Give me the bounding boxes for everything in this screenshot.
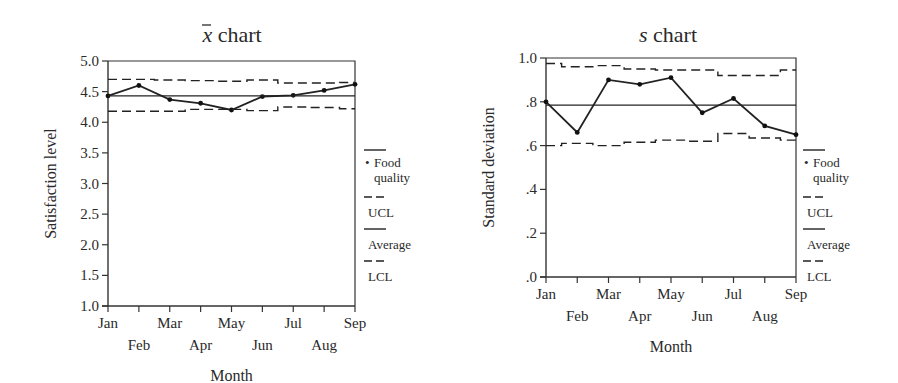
data-point-marker (136, 83, 141, 88)
legend: •FoodqualityUCLAverageLCL (364, 150, 411, 284)
y-tick-label: 3.5 (80, 145, 99, 161)
x-tick-label: Apr (628, 308, 651, 324)
x-tick-label: Feb (566, 308, 589, 324)
chart-title-symbol: x (201, 22, 212, 47)
legend-label: LCL (368, 269, 393, 284)
y-axis-label: Standard deviation (480, 107, 497, 227)
data-point-marker (167, 97, 172, 102)
food-quality-line (108, 84, 355, 110)
x-axis-label: Month (650, 338, 693, 355)
y-tick-label: .0 (526, 269, 537, 285)
legend-label: UCL (368, 205, 394, 220)
y-tick-label: .6 (526, 138, 538, 154)
x-tick-label: Jul (725, 286, 743, 302)
data-point-marker (322, 88, 327, 93)
y-tick-label: 1.5 (80, 267, 99, 283)
x-tick-label: Jul (284, 315, 302, 331)
x-tick-label: Sep (785, 286, 808, 302)
plot-frame (108, 61, 355, 306)
data-point-marker (700, 110, 705, 115)
control-charts-canvas: x chart1.01.52.02.53.03.54.04.55.0JanFeb… (0, 0, 898, 383)
x-tick-label: Aug (752, 308, 778, 324)
y-tick-label: .8 (526, 94, 537, 110)
legend-label: LCL (807, 269, 832, 284)
x-tick-label: Jun (252, 337, 273, 353)
y-tick-label: 4.0 (80, 114, 99, 130)
data-point-marker (669, 75, 674, 80)
x-tick-label: May (218, 315, 246, 331)
food-quality-line (546, 78, 796, 135)
legend-label-cont: quality (813, 170, 850, 185)
x-axis-label: Month (210, 367, 253, 383)
lcl-line (546, 134, 796, 146)
data-point-marker (575, 130, 580, 135)
legend-label: Average (807, 237, 850, 252)
data-point-marker (794, 132, 799, 137)
y-tick-label: 1.0 (80, 298, 99, 314)
chart-title-symbol: s (639, 22, 648, 47)
x-tick-label: Feb (128, 337, 151, 353)
legend-label: Average (368, 237, 411, 252)
data-point-marker (637, 82, 642, 87)
legend-label: UCL (807, 205, 833, 220)
x-tick-label: May (657, 286, 685, 302)
data-point-marker (544, 99, 549, 104)
plot-frame (546, 58, 796, 277)
x-tick-label: Mar (596, 286, 621, 302)
chart-title: s chart (639, 22, 697, 47)
x-tick-label: Apr (189, 337, 212, 353)
legend-marker-icon: • (365, 155, 370, 170)
x-tick-label: Aug (311, 337, 337, 353)
x-tick-label: Jan (98, 315, 118, 331)
chart-title: x chart (201, 22, 261, 47)
legend-marker-icon: • (804, 155, 809, 170)
legend-label-cont: quality (374, 170, 411, 185)
data-point-marker (198, 101, 203, 106)
xbar-chart: x chart1.01.52.02.53.03.54.04.55.0JanFeb… (42, 22, 411, 383)
y-tick-label: 2.0 (80, 237, 99, 253)
data-point-marker (606, 78, 611, 83)
legend-label: Food (813, 155, 840, 170)
y-tick-label: 5.0 (80, 53, 99, 69)
chart-title-text: chart (212, 22, 261, 47)
x-tick-label: Jun (692, 308, 713, 324)
y-tick-label: 3.0 (80, 176, 99, 192)
s-chart: s chart.0.2.4.6.81.0JanFebMarAprMayJunJu… (480, 22, 850, 355)
ucl-line (108, 79, 355, 83)
y-axis-label: Satisfaction level (42, 128, 59, 239)
y-tick-label: 1.0 (518, 50, 537, 66)
legend: •FoodqualityUCLAverageLCL (803, 150, 850, 284)
legend-label: Food (374, 155, 401, 170)
chart-title-text: chart (648, 22, 697, 47)
data-point-marker (731, 96, 736, 101)
data-point-marker (762, 123, 767, 128)
x-tick-label: Sep (344, 315, 367, 331)
y-tick-label: 2.5 (80, 206, 99, 222)
ucl-line (546, 63, 796, 75)
y-tick-label: 4.5 (80, 84, 99, 100)
x-tick-label: Mar (157, 315, 182, 331)
y-tick-label: .4 (526, 181, 538, 197)
x-tick-label: Jan (536, 286, 556, 302)
y-tick-label: .2 (526, 225, 537, 241)
